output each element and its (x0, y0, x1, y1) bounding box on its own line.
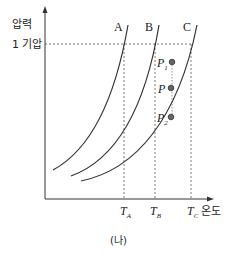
tb-label: TB (150, 204, 162, 220)
curve-c-label: C (183, 20, 191, 34)
point-p2 (168, 114, 174, 120)
point-p1 (169, 59, 175, 65)
ta-label: TA (120, 204, 132, 220)
y-axis-label: 압력 (12, 18, 32, 31)
x-axis-arrow-icon (207, 197, 214, 202)
tc-label: TC (187, 204, 199, 220)
curve-c (81, 25, 197, 181)
point-p (168, 85, 174, 91)
caption: (나) (110, 235, 127, 246)
curve-b-label: B (145, 20, 153, 34)
p-label: P (157, 82, 166, 96)
x-axis-label: 온도 (201, 205, 221, 218)
phase-diagram: A B C 압력 1 기압 온도 TA TB TC P1 P P2 (나) (0, 0, 237, 256)
p1-label: P1 (156, 56, 168, 72)
pressure-mark: 1 기압 (12, 38, 43, 51)
y-axis-arrow-icon (43, 6, 48, 13)
curve-a-label: A (114, 20, 123, 34)
curve-a (53, 25, 128, 170)
curve-b (71, 25, 159, 176)
